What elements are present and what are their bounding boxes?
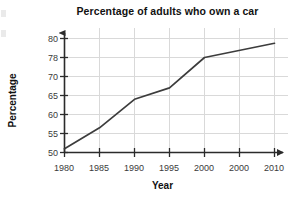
plot-area bbox=[0, 0, 302, 201]
chart-container: Percentage of adults who own a car Perce… bbox=[0, 0, 302, 201]
horizontal-gridlines bbox=[64, 39, 288, 134]
